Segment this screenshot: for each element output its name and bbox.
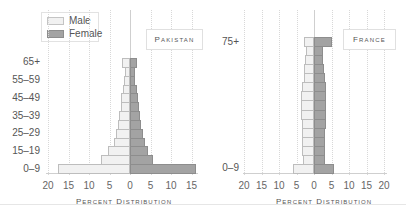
bar-male-20–24 [302,137,314,147]
bar-female-75+ [314,37,332,47]
y-tick-label: 15–19 [12,145,40,156]
x-tick-label: 0 [127,180,133,191]
gridline [262,10,263,175]
bar-male-45–49 [301,91,314,101]
bar-male-60–64 [304,64,314,74]
bar-female-40–44 [314,100,326,110]
bar-male-65–69 [305,55,314,65]
x-tick-label: 15 [361,180,372,191]
pakistan-chart: Pakistan 65+55–5945–4935–3925–2915–190–9… [0,0,203,200]
bar-male-30–34 [302,119,314,129]
x-tick-label: 5 [294,180,300,191]
gridline [69,10,70,175]
bar-female-0–9 [130,164,196,174]
bar-female-60–64 [314,64,324,74]
pakistan-title-box: Pakistan [146,29,203,50]
y-tick-label: 25–29 [12,127,40,138]
bar-male-50–54 [302,82,314,92]
y-tick-label: 45–49 [12,92,40,103]
bar-male-40–44 [121,102,130,112]
gridline [297,10,298,175]
bar-male-35–39 [301,110,314,120]
x-tick-label: 5 [107,180,113,191]
france-title: France [353,35,386,44]
bar-female-45–49 [130,93,138,103]
bar-female-30–34 [314,119,326,129]
y-tick-label: 55–59 [12,74,40,85]
bar-male-0–9 [293,164,314,174]
gridline [332,10,333,175]
bar-female-20–24 [314,137,325,147]
bar-male-15–19 [108,146,130,156]
bar-male-25–29 [116,129,130,139]
bar-male-15–19 [302,146,314,156]
bottom-divider [0,204,406,205]
bar-male-45–49 [121,93,130,103]
x-tick-label: 20 [42,180,53,191]
bar-male-25–29 [302,128,314,138]
gridline [244,10,245,175]
y-tick-label: 0–9 [23,163,40,174]
y-tick-label: 0–9 [222,162,239,173]
bar-female-15–19 [314,146,325,156]
gridline [279,10,280,175]
bar-male-40–44 [301,100,314,110]
bar-male-70–74 [306,46,314,56]
bar-female-25–29 [314,128,325,138]
bar-female-50–54 [130,85,137,95]
bar-male-65+ [122,58,130,68]
bar-male-30–34 [118,120,130,130]
x-tick-label: 20 [238,180,249,191]
bar-female-65–69 [314,55,323,65]
bar-female-0–9 [314,164,334,174]
x-tick-label: 10 [273,180,284,191]
bar-female-35–39 [314,110,326,120]
bar-female-60–64 [130,67,135,77]
x-tick-label: 10 [343,180,354,191]
x-tick-label: 10 [165,180,176,191]
bar-female-40–44 [130,102,139,112]
y-tick-label: 35–39 [12,110,40,121]
x-tick-label: 5 [148,180,154,191]
bar-female-45–49 [314,91,326,101]
y-tick-label: 75+ [222,36,239,47]
pakistan-title: Pakistan [154,35,194,44]
bar-female-70–74 [314,46,323,56]
bar-male-55–59 [304,73,315,83]
bar-female-15–19 [130,146,148,156]
bar-female-50–54 [314,82,326,92]
gridline [89,10,90,175]
bar-female-30–34 [130,120,141,130]
bar-male-50–54 [123,85,130,95]
bar-male-0–9 [58,164,130,174]
france-chart: France 75+0–9 201510505101520 Percent Di… [203,0,406,200]
bar-female-10–14 [314,155,325,165]
x-tick-label: 10 [83,180,94,191]
bar-female-55–59 [130,76,135,86]
bar-male-10–14 [101,155,130,165]
x-tick-label: 15 [186,180,197,191]
bar-male-75+ [304,37,315,47]
y-tick-label: 65+ [23,56,40,67]
x-tick-label: 5 [329,180,335,191]
x-tick-label: 0 [311,180,317,191]
gridline [48,10,49,175]
bar-female-10–14 [130,155,153,165]
france-title-box: France [343,29,396,50]
bar-male-10–14 [303,155,314,165]
x-tick-label: 15 [63,180,74,191]
bar-male-35–39 [119,111,130,121]
bar-female-65+ [130,58,137,68]
bar-female-25–29 [130,129,143,139]
bar-female-20–24 [130,138,145,148]
bar-female-35–39 [130,111,140,121]
bar-female-55–59 [314,73,325,83]
x-tick-label: 15 [256,180,267,191]
bar-male-20–24 [114,138,130,148]
x-tick-label: 20 [378,180,389,191]
